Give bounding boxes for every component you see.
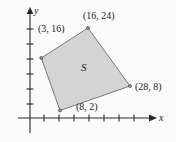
vertex-dot-16-24	[86, 26, 89, 29]
y-axis-arrowhead	[27, 7, 34, 14]
vertex-label-3-16: (3, 16)	[38, 24, 65, 34]
vertex-label-28-8: (28, 8)	[135, 82, 162, 92]
y-axis-label: y	[34, 6, 38, 16]
vertex-label-8-2: (8, 2)	[76, 102, 98, 112]
vertex-label-16-24: (16, 24)	[83, 11, 115, 21]
x-axis-arrowhead	[149, 115, 157, 122]
figure-container: (3, 16) (16, 24) (28, 8) (8, 2) S x y	[0, 0, 176, 142]
x-axis-label: x	[159, 113, 163, 123]
vertex-dot-28-8	[128, 84, 131, 87]
vertex-dot-3-16	[40, 56, 43, 59]
vertex-dot-8-2	[58, 109, 61, 112]
region-label-s: S	[81, 62, 87, 73]
coordinate-plane-graphic	[0, 0, 176, 142]
